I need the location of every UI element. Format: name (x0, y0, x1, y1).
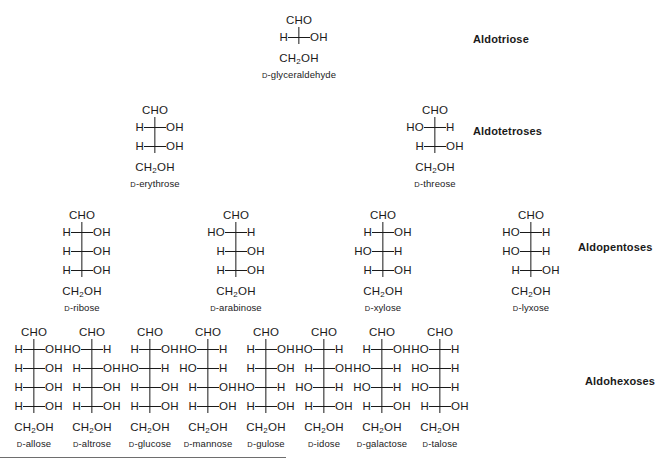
substituent-left-h: H (499, 264, 520, 277)
fischer-projection: CHOHOHHOHHOHHOHCH2OH (118, 322, 182, 435)
family-label-aldotriose: Aldotriose (473, 33, 529, 45)
substituent-left-h: H (292, 400, 313, 413)
molecule-threose: CHOHOHHOHCH2OHD-threose (375, 100, 495, 191)
hydroxymethyl-group: CH2OH (187, 421, 228, 435)
stereocenter-row-2: HOH (118, 359, 182, 378)
hydroxymethyl-group: CH2OH (61, 285, 102, 299)
molecule-ribose: CHOHOHHOHHOHCH2OHD-ribose (22, 205, 142, 315)
horizontal-bond (372, 270, 394, 271)
horizontal-bond (81, 368, 103, 369)
stereocenter-row-1: HOH (234, 340, 298, 359)
aldose-family-diagram: CHOHOHCH2OHD-glyceraldehydeCHOHOHHOHCH2O… (0, 0, 667, 466)
stereocenter-row-2: HOH (350, 359, 414, 378)
substituent-right-oh: OH (247, 264, 268, 277)
aldehyde-group: CHO (368, 326, 396, 339)
aldehyde-group: CHO (426, 326, 454, 339)
substituent-right-h: H (394, 245, 415, 258)
substituent-left-h: H (176, 381, 197, 394)
substituent-left-ho: HO (403, 121, 424, 134)
aldehyde-group: CHO (20, 326, 48, 339)
stereocenter-row-3: HOH (118, 378, 182, 397)
d-configuration-prefix: D (17, 440, 23, 449)
substituent-left-h: H (234, 400, 255, 413)
hydroxymethyl-group: CH2OH (134, 161, 175, 175)
horizontal-bond (139, 349, 161, 350)
substituent-left-h: H (50, 226, 71, 239)
substituent-left-h: H (118, 343, 139, 356)
horizontal-bond (139, 406, 161, 407)
stereocenter-row-1: HOH (351, 223, 415, 242)
stereocenter-row-3: HOH (499, 261, 563, 280)
fischer-projection: CHOHOHHOHHOHCH2OH (204, 205, 268, 299)
substituent-right-oh: OH (93, 245, 114, 258)
horizontal-bond (81, 406, 103, 407)
horizontal-bond (255, 406, 277, 407)
aldehyde-group: CHO (136, 326, 164, 339)
hydroxymethyl-group: CH2OH (71, 421, 112, 435)
substituent-left-h: H (118, 400, 139, 413)
substituent-left-h: H (351, 226, 372, 239)
substituent-left-h: H (60, 400, 81, 413)
substituent-left-h: H (204, 264, 225, 277)
stereocenter-row-3: HOH (350, 378, 414, 397)
horizontal-bond (313, 387, 335, 388)
horizontal-bond (520, 232, 542, 233)
stereocenter-row-2: HOH (204, 242, 268, 261)
stereocenter-row-1: HOH (267, 28, 331, 47)
molecule-arabinose: CHOHOHHOHHOHCH2OHD-arabinose (176, 205, 296, 315)
horizontal-bond (372, 232, 394, 233)
stereocenter-row-4: HOH (408, 397, 472, 416)
stereocenter-row-4: HOH (118, 397, 182, 416)
substituent-left-h: H (60, 381, 81, 394)
stereocenter-row-2: HOH (50, 242, 114, 261)
substituent-left-h: H (267, 31, 288, 44)
stereocenter-row-2: HOH (403, 137, 467, 156)
substituent-left-ho: HO (118, 362, 139, 375)
horizontal-bond (71, 251, 93, 252)
horizontal-bond (371, 349, 393, 350)
substituent-left-h: H (2, 400, 23, 413)
substituent-left-h: H (2, 362, 23, 375)
substituent-left-ho: HO (408, 362, 429, 375)
fischer-projection: CHOHOHHOHHOHHOHCH2OH (60, 322, 124, 435)
fischer-projection: CHOHOHHOHHOHHOHCH2OH (292, 322, 356, 435)
substituent-left-h: H (50, 245, 71, 258)
d-configuration-prefix: D (184, 440, 190, 449)
hydroxymethyl-group: CH2OH (215, 285, 256, 299)
substituent-right-oh: OH (310, 31, 331, 44)
horizontal-bond (288, 37, 310, 38)
substituent-left-h: H (118, 381, 139, 394)
aldehyde-group: CHO (222, 209, 250, 222)
stereocenter-row-2: HOH (351, 242, 415, 261)
horizontal-bond (197, 368, 219, 369)
fischer-projection: CHOHOHHOHHOHHOHCH2OH (176, 322, 240, 435)
stereocenter-row-4: HOH (2, 397, 66, 416)
substituent-left-h: H (403, 140, 424, 153)
horizontal-bond (225, 251, 247, 252)
fischer-projection: CHOHOHHOHHOHHOHCH2OH (234, 322, 298, 435)
d-configuration-prefix: D (513, 304, 519, 313)
substituent-right-h: H (542, 245, 563, 258)
fischer-projection: CHOHOHHOHHOHHOHCH2OH (2, 322, 66, 435)
stereocenter-row-1: HOH (2, 340, 66, 359)
horizontal-bond (313, 406, 335, 407)
horizontal-bond (197, 387, 219, 388)
stereocenter-row-1: HOH (176, 340, 240, 359)
horizontal-bond (139, 368, 161, 369)
substituent-right-h: H (542, 226, 563, 239)
substituent-left-h: H (2, 381, 23, 394)
stereocenter-row-3: HOH (60, 378, 124, 397)
horizontal-bond (371, 387, 393, 388)
substituent-left-h: H (123, 121, 144, 134)
horizontal-bond (429, 368, 451, 369)
stereocenter-row-1: HOH (403, 118, 467, 137)
stereocenter-row-1: HOH (499, 223, 563, 242)
aldehyde-group: CHO (421, 104, 449, 117)
substituent-left-ho: HO (499, 226, 520, 239)
stereocenter-row-1: HOH (60, 340, 124, 359)
substituent-right-oh: OH (542, 264, 563, 277)
horizontal-bond (429, 406, 451, 407)
substituent-left-h: H (123, 140, 144, 153)
molecule-erythrose: CHOHOHHOHCH2OHD-erythrose (95, 100, 215, 191)
d-configuration-prefix: D (129, 440, 135, 449)
